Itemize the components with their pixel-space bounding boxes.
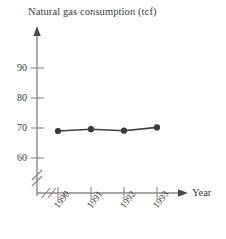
data-point-marker xyxy=(88,126,94,132)
data-point-marker xyxy=(121,128,127,134)
chart-figure: Natural gas consumption (tcf) xyxy=(0,0,226,239)
x-axis-arrow-icon xyxy=(178,189,188,196)
data-point-marker xyxy=(55,128,61,134)
x-axis-label: Year xyxy=(192,187,211,198)
y-tick-label-70: 70 xyxy=(5,123,27,133)
chart-plot-area xyxy=(0,0,226,239)
data-line xyxy=(58,127,157,131)
y-tick-label-90: 90 xyxy=(5,63,27,73)
y-tick-label-80: 80 xyxy=(5,93,27,103)
y-axis-arrow-icon xyxy=(33,26,40,36)
data-point-marker xyxy=(154,124,160,130)
y-tick-label-60: 60 xyxy=(5,153,27,163)
